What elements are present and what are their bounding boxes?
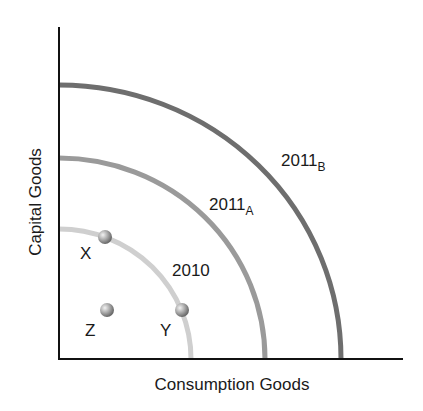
point-z <box>100 303 114 317</box>
point-y-label: Y <box>160 321 171 340</box>
curve-2011a-label-sub: A <box>246 204 254 218</box>
curve-2011b-label: 2011B <box>281 151 326 174</box>
point-z-label: Z <box>85 321 95 340</box>
x-axis-label: Consumption Goods <box>155 375 310 394</box>
ppf-diagram: X Z Y 2010 2011A 2011B Consumption Goods… <box>0 0 423 411</box>
curve-2011a-label: 2011A <box>209 195 254 218</box>
curve-2011b-label-main: 2011 <box>281 151 318 170</box>
point-x <box>98 230 112 244</box>
curve-2011a-label-main: 2011 <box>209 195 246 214</box>
curve-2011b <box>59 85 341 359</box>
curve-2010-label: 2010 <box>172 261 210 280</box>
point-x-label: X <box>80 244 91 263</box>
curve-2011b-label-sub: B <box>318 160 326 174</box>
y-axis-label: Capital Goods <box>26 148 45 256</box>
point-y <box>175 303 189 317</box>
